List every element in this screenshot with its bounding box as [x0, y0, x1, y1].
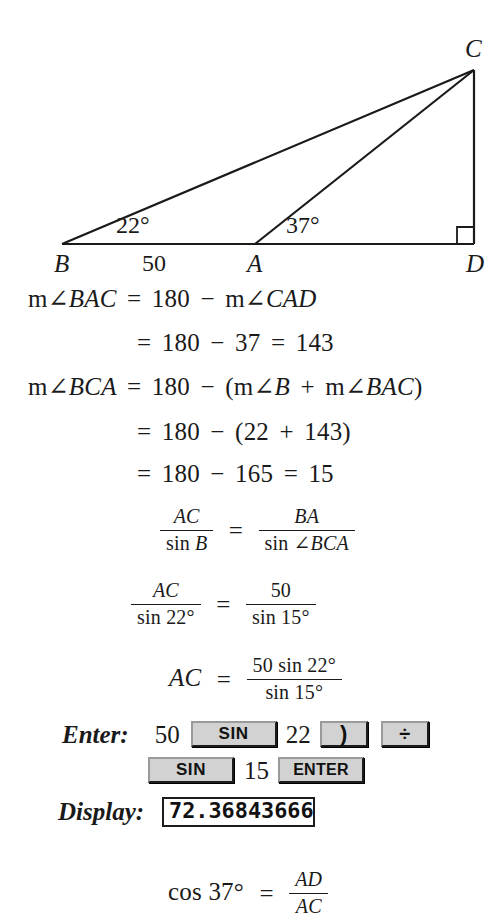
fraction-50-over-sin-15: 50 sin 15° — [246, 579, 316, 629]
open-paren: ( — [225, 373, 234, 400]
equals-sign: = — [133, 329, 155, 356]
label-ac: AC — [169, 664, 201, 691]
m-prefix-2: m — [234, 373, 254, 400]
entry-number-50: 50 — [155, 722, 180, 747]
law-of-sines-proportion-1: AC sinB = BA sin∠BCA — [160, 506, 355, 556]
sin-function: sin — [166, 532, 190, 554]
minus-sign: − — [196, 285, 218, 312]
right-angle-marker — [457, 227, 474, 244]
calculator-enter-row-2: SIN 15 ENTER — [148, 757, 364, 783]
numerator-ba: BA — [259, 505, 355, 531]
denominator-sin-15: sin 15° — [247, 680, 342, 705]
value-180: 180 — [162, 418, 200, 445]
value-22: 22 — [244, 418, 269, 445]
close-paren: ) — [342, 418, 351, 445]
value-165: 165 — [235, 460, 273, 487]
angle-name-bca: BCA — [69, 373, 117, 400]
angle-name-bca: BCA — [311, 532, 349, 554]
fraction-ac-over-sin-22: AC sin 22° — [131, 579, 201, 629]
equals-sign: = — [207, 592, 239, 617]
final-cosine-equation: cos 37° = AD AC — [168, 869, 328, 919]
vertex-label-c: C — [465, 36, 482, 61]
triangle-svg — [0, 0, 501, 282]
m-prefix-3: m — [325, 373, 345, 400]
m-prefix: m — [28, 285, 48, 312]
vertex-label-b: B — [54, 251, 69, 276]
equals-sign: = — [220, 518, 252, 543]
value-143: 143 — [296, 329, 334, 356]
triangle-figure: B A D C 22° 37° 50 — [0, 0, 501, 282]
numerator-ac: AC — [131, 579, 201, 605]
value-15: 15 — [308, 460, 333, 487]
sin-key[interactable]: SIN — [191, 721, 277, 747]
law-of-sines-proportion-2: AC sin 22° = 50 sin 15° — [131, 580, 316, 630]
equals-sign: = — [133, 460, 155, 487]
angle-label-22: 22° — [116, 213, 150, 237]
equals-sign-2: = — [267, 329, 289, 356]
m-prefix: m — [28, 373, 48, 400]
angle-symbol: ∠ — [294, 532, 311, 554]
angle-name-bac-2: BAC — [366, 373, 414, 400]
enter-key[interactable]: ENTER — [278, 757, 364, 783]
value-180: 180 — [152, 285, 190, 312]
angle-symbol-3: ∠ — [345, 373, 366, 400]
angle-symbol-2: ∠ — [253, 373, 274, 400]
minus-sign: − — [206, 329, 228, 356]
sin-function: sin — [265, 532, 289, 554]
display-value: 72.36843666 — [169, 800, 314, 823]
minus-sign: − — [206, 460, 228, 487]
open-paren: ( — [235, 418, 244, 445]
step-line-1: m∠BAC = 180 − m∠CAD — [28, 286, 317, 311]
value-37: 37 — [235, 329, 260, 356]
calculator-display-row: Display: 72.36843666 — [58, 797, 315, 827]
sin-key-2[interactable]: SIN — [148, 757, 234, 783]
step-line-3: m∠BCA = 180 − (m∠B + m∠BAC) — [28, 374, 422, 399]
minus-sign: − — [206, 418, 228, 445]
denominator-ac: AC — [289, 894, 328, 919]
display-label: Display: — [58, 799, 144, 824]
denominator-sin-b: sinB — [160, 531, 213, 556]
m-prefix-2: m — [225, 285, 245, 312]
plus-sign: + — [296, 373, 318, 400]
vertex-label-d: D — [466, 251, 484, 276]
value-143: 143 — [304, 418, 342, 445]
entry-number-15: 15 — [244, 758, 269, 783]
side-label-50: 50 — [142, 251, 166, 275]
solved-equation-ac: AC = 50 sin 22° sin 15° — [169, 655, 342, 705]
angle-symbol: ∠ — [48, 373, 69, 400]
fraction-ba-over-sin-bca: BA sin∠BCA — [259, 505, 355, 555]
calculator-enter-row: Enter: 50 SIN 22 ) ÷ — [62, 721, 429, 747]
denominator-sin-bca: sin∠BCA — [259, 531, 355, 556]
angle-label-37: 37° — [286, 213, 320, 237]
fraction-ac-over-sin-b: AC sinB — [160, 505, 213, 555]
numerator-ad: AD — [289, 868, 328, 894]
equals-sign-2: = — [280, 460, 302, 487]
value-180: 180 — [162, 460, 200, 487]
value-180: 180 — [162, 329, 200, 356]
vertex-label-a: A — [247, 251, 262, 276]
cos-37-term: cos 37° — [168, 878, 244, 905]
close-paren-key[interactable]: ) — [320, 721, 368, 747]
angle-symbol: ∠ — [48, 285, 69, 312]
equals-sign: = — [123, 285, 145, 312]
fraction-ad-over-ac: AD AC — [289, 868, 328, 918]
denominator-sin-15: sin 15° — [246, 605, 316, 630]
fraction-50sin22-over-sin15: 50 sin 22° sin 15° — [247, 654, 342, 704]
divide-key[interactable]: ÷ — [381, 721, 429, 747]
step-line-5: = 180 − 165 = 15 — [133, 461, 334, 486]
angle-symbol-2: ∠ — [245, 285, 266, 312]
entry-number-22: 22 — [286, 722, 311, 747]
step-line-4: = 180 − (22 + 143) — [133, 419, 351, 444]
step-line-2: = 180 − 37 = 143 — [133, 330, 334, 355]
equals-sign: = — [208, 667, 240, 692]
angle-name-b: B — [195, 532, 207, 554]
numerator-50-sin-22: 50 sin 22° — [247, 654, 342, 680]
equals-sign: = — [250, 881, 282, 906]
numerator-50: 50 — [246, 579, 316, 605]
close-paren: ) — [414, 373, 423, 400]
calculator-display: 72.36843666 — [162, 797, 315, 827]
equals-sign: = — [133, 418, 155, 445]
angle-name-b: B — [275, 373, 290, 400]
denominator-sin-22: sin 22° — [131, 605, 201, 630]
plus-sign: + — [275, 418, 297, 445]
